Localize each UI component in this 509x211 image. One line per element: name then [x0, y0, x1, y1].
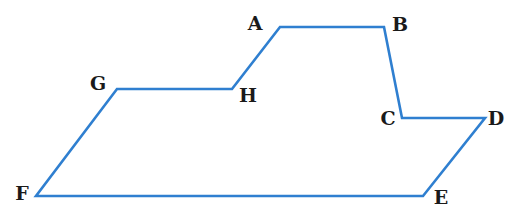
vertex-labels: ABCDEFGH — [15, 12, 504, 208]
vertex-label-g: G — [90, 72, 106, 94]
polygon-diagram: ABCDEFGH — [0, 0, 509, 211]
vertex-label-f: F — [15, 182, 29, 204]
vertex-label-a: A — [247, 12, 263, 34]
vertex-label-b: B — [392, 13, 408, 35]
vertex-label-d: D — [488, 107, 504, 129]
vertex-label-e: E — [434, 186, 448, 208]
vertex-label-c: C — [380, 107, 395, 129]
vertex-label-h: H — [239, 84, 257, 106]
polygon-abcdefgh — [36, 27, 485, 196]
diagram-svg: ABCDEFGH — [0, 0, 509, 211]
